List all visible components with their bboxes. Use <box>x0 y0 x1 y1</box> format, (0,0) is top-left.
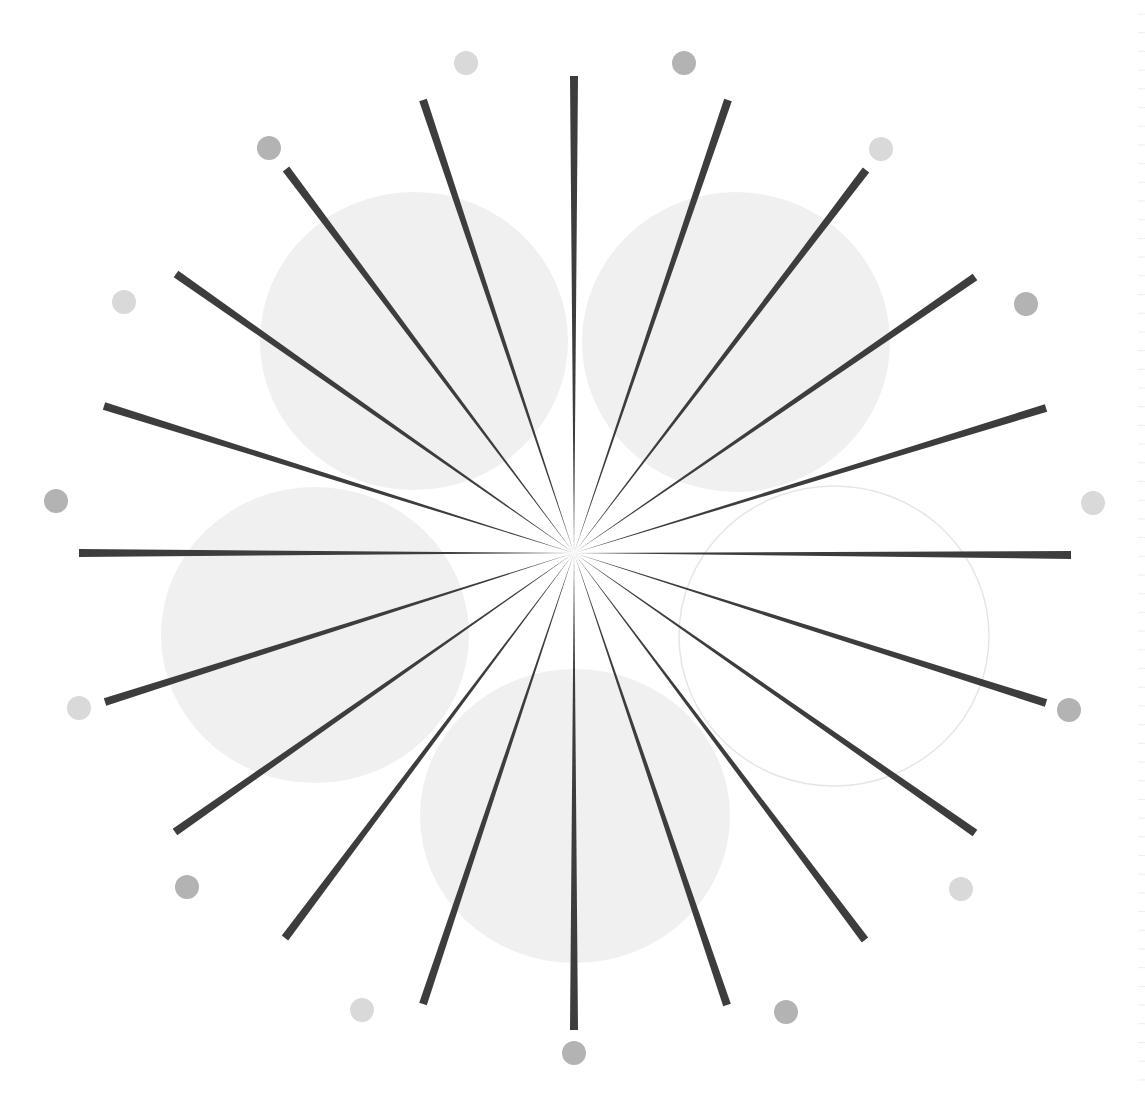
dot-light <box>67 696 91 720</box>
dot-light <box>869 137 893 161</box>
dot-light <box>1081 491 1105 515</box>
dot-dark <box>1057 698 1081 722</box>
spoke-90 <box>574 551 1071 559</box>
dot-dark <box>175 875 199 899</box>
spoke-0 <box>570 76 578 553</box>
radial-spokes <box>79 76 1071 1030</box>
dot-dark <box>1014 292 1038 316</box>
dot-light <box>454 51 478 75</box>
dot-light <box>949 877 973 901</box>
dot-dark <box>774 1000 798 1024</box>
dot-dark <box>44 489 68 513</box>
dot-dark <box>562 1041 586 1065</box>
dot-dark <box>672 51 696 75</box>
dot-light <box>112 290 136 314</box>
starburst-artwork <box>0 0 1145 1096</box>
dot-dark <box>257 136 281 160</box>
dot-light <box>350 998 374 1022</box>
edge-ruler-ticks <box>1138 14 1145 1080</box>
